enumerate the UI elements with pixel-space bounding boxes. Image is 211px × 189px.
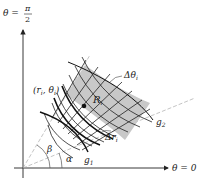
vertical-axis-label-den: 2 [25, 15, 30, 24]
diagram-svg: θ = π 2 θ = 0 (ri, θi) Ri Δθi Δri g1 g2 … [0, 0, 211, 189]
horizontal-axis-label: θ = 0 [172, 163, 197, 173]
polar-region-diagram: θ = π 2 θ = 0 (ri, θi) Ri Δθi Δri g1 g2 … [0, 0, 211, 189]
vertical-axis-label-num: π [24, 4, 31, 13]
vertical-axis-label-lhs: θ = [3, 8, 19, 18]
alpha-label: α [66, 154, 72, 164]
g2-label: g2 [156, 117, 166, 128]
delta-theta-label: Δθi [123, 70, 138, 81]
beta-label: β [46, 144, 52, 154]
delta-theta-brace [110, 76, 122, 82]
delta-r-label: Δri [104, 132, 118, 143]
point-ri [82, 104, 87, 109]
g1-label: g1 [84, 155, 94, 166]
point-label: (ri, θi) [33, 85, 60, 96]
alpha-arc [59, 153, 62, 168]
